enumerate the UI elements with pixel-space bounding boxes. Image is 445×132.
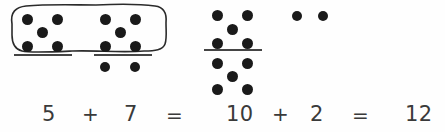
dot bbox=[130, 14, 141, 25]
dot bbox=[292, 11, 302, 21]
dot bbox=[212, 10, 223, 21]
sum-10: 10 bbox=[226, 104, 254, 125]
dot bbox=[227, 71, 238, 82]
plus-1: + bbox=[82, 104, 99, 124]
hand-drawn-circle-icon bbox=[12, 4, 167, 52]
addend-5: 5 bbox=[42, 104, 56, 125]
dot bbox=[37, 27, 48, 38]
dot bbox=[212, 58, 223, 69]
dot bbox=[130, 41, 141, 52]
dot bbox=[100, 62, 110, 72]
ten-frame-divider bbox=[204, 49, 262, 51]
dot bbox=[227, 24, 238, 35]
underline-middle-group bbox=[94, 54, 152, 56]
dot bbox=[212, 38, 223, 49]
dot bbox=[318, 11, 328, 21]
dot bbox=[22, 14, 33, 25]
addend-7: 7 bbox=[124, 104, 138, 125]
total-12: 12 bbox=[405, 104, 433, 125]
underline-left-group bbox=[14, 54, 72, 56]
dot bbox=[52, 41, 63, 52]
dot bbox=[212, 84, 223, 95]
addend-2: 2 bbox=[310, 104, 324, 125]
equals-1: = bbox=[166, 105, 183, 125]
loop-layer bbox=[0, 0, 445, 132]
equals-2: = bbox=[352, 105, 369, 125]
dot bbox=[100, 14, 111, 25]
worksheet-canvas: 5+7=10+2=12 bbox=[0, 0, 445, 132]
dot bbox=[22, 41, 33, 52]
dot bbox=[242, 84, 253, 95]
dot bbox=[242, 10, 253, 21]
dot bbox=[100, 41, 111, 52]
plus-2: + bbox=[272, 104, 289, 124]
dot bbox=[242, 58, 253, 69]
dot bbox=[115, 27, 126, 38]
dot bbox=[52, 14, 63, 25]
dot bbox=[242, 38, 253, 49]
dot bbox=[130, 62, 140, 72]
